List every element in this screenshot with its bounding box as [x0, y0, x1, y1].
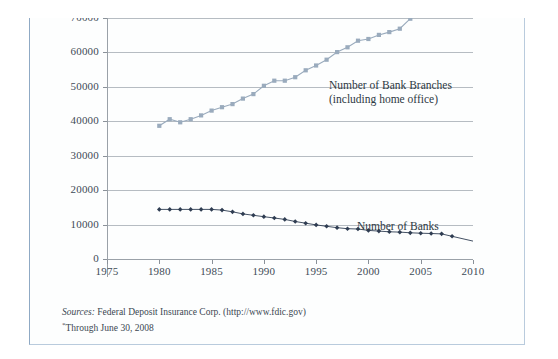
x-tick-label-1985: 1985: [188, 265, 236, 277]
y-tick-label-0: 0: [35, 252, 99, 264]
x-tick-mark-1985: [212, 260, 213, 264]
source-note: Sources: Federal Deposit Insurance Corp.…: [62, 306, 306, 335]
y-tick-label-20000: 20000: [35, 183, 99, 195]
exhibit-frame: [29, 14, 525, 345]
gridline-70000: [107, 18, 473, 19]
gridline-0: [107, 259, 473, 260]
gridline-60000: [107, 52, 473, 53]
x-tick-mark-1975: [107, 260, 108, 264]
x-tick-label-1995: 1995: [292, 265, 340, 277]
x-tick-label-1990: 1990: [240, 265, 288, 277]
sources-text: Federal Deposit Insurance Corp. (http://…: [97, 307, 306, 317]
x-tick-label-1975: 1975: [83, 265, 131, 277]
sources-word: Sources:: [62, 307, 95, 317]
source-line: Sources: Federal Deposit Insurance Corp.…: [62, 306, 306, 319]
y-tick-label-60000: 60000: [35, 45, 99, 57]
y-axis-line: [107, 18, 108, 277]
x-tick-mark-1995: [316, 260, 317, 264]
x-tick-mark-2005: [421, 260, 422, 264]
x-tick-mark-1980: [159, 260, 160, 264]
x-tick-label-1980: 1980: [135, 265, 183, 277]
series-label-bank-branches-line1: Number of Bank Branches: [329, 78, 452, 92]
x-tick-label-2000: 2000: [344, 265, 392, 277]
x-tick-mark-1990: [264, 260, 265, 264]
y-tick-label-10000: 10000: [35, 218, 99, 230]
y-tick-label-70000: 70000: [35, 11, 99, 23]
x-tick-mark-2010: [473, 260, 474, 264]
footnote-line: *Through June 30, 2008: [62, 319, 306, 335]
gridline-20000: [107, 190, 473, 191]
gridline-40000: [107, 121, 473, 122]
series-label-number-of-banks-line1: Number of Banks: [357, 219, 439, 233]
series-label-bank-branches-line2: (including home office): [329, 92, 452, 106]
footnote-text: Through June 30, 2008: [66, 323, 154, 333]
y-tick-label-30000: 30000: [35, 149, 99, 161]
chart-figure: 010000200003000040000500006000070000 197…: [0, 0, 558, 359]
x-tick-label-2010: 2010: [449, 265, 497, 277]
series-label-bank-branches: Number of Bank Branches (including home …: [329, 78, 452, 106]
y-tick-label-50000: 50000: [35, 80, 99, 92]
y-tick-label-40000: 40000: [35, 114, 99, 126]
series-label-number-of-banks: Number of Banks: [357, 219, 439, 233]
x-tick-label-2005: 2005: [397, 265, 445, 277]
x-tick-mark-2000: [368, 260, 369, 264]
gridline-30000: [107, 156, 473, 157]
